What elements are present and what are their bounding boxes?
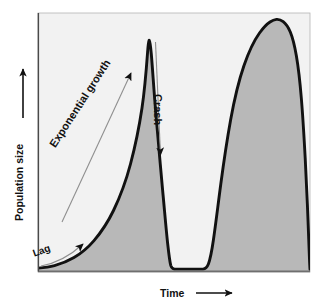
population-cycle-chart <box>0 0 332 308</box>
x-axis-label: Time <box>160 287 184 299</box>
y-axis-label-text: Population size <box>13 144 25 221</box>
population-cycle-figure: Population size Time Exponential growth … <box>0 0 332 308</box>
y-axis-label: Population size <box>11 91 27 221</box>
x-axis-label-text: Time <box>160 287 184 299</box>
annotation-crash: Crash <box>152 94 164 125</box>
